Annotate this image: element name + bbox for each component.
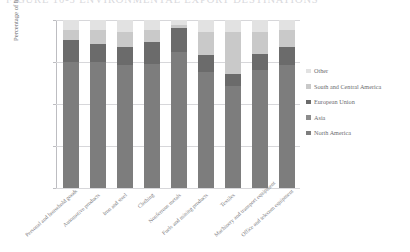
bar-segment[interactable] (252, 32, 268, 54)
bar-column[interactable] (90, 20, 106, 188)
bar-segment[interactable] (225, 86, 241, 188)
chart-legend: OtherSouth and Central AmericaEuropean U… (306, 63, 410, 141)
bar-segment[interactable] (198, 55, 214, 72)
y-axis-tick-mark (53, 104, 56, 105)
bar-column[interactable] (198, 20, 214, 188)
bar-column[interactable] (225, 20, 241, 188)
legend-item[interactable]: Asia (306, 110, 410, 126)
legend-swatch-icon (306, 131, 311, 136)
bar-segment[interactable] (144, 42, 160, 64)
bar-segment[interactable] (279, 20, 295, 30)
bar-segment[interactable] (90, 30, 106, 43)
x-axis-tick-label: Nonferrous metals (132, 192, 182, 238)
y-axis-tick-mark (53, 20, 56, 21)
x-axis-tick-label: Textiles (186, 192, 236, 238)
x-axis-tick-label: Personal and household goods (23, 192, 73, 238)
x-axis-tick-label: Office and telecom equipment (240, 192, 290, 238)
bar-segment[interactable] (117, 47, 133, 65)
legend-swatch-icon (306, 84, 311, 89)
page-title: FIGURE 10-5 ENVIRONMENTAL EXPORT DESTINA… (6, 0, 404, 6)
bar-segment[interactable] (63, 62, 79, 188)
bar-segment[interactable] (90, 62, 106, 188)
bar-segment[interactable] (225, 74, 241, 86)
x-axis-tick-label: Automotive products (51, 192, 101, 238)
legend-swatch-icon (306, 69, 311, 74)
bar-segment[interactable] (252, 70, 268, 188)
legend-item[interactable]: North America (306, 125, 410, 141)
bar-segment[interactable] (144, 20, 160, 30)
bar-segment[interactable] (171, 52, 187, 188)
bar-segment[interactable] (279, 30, 295, 47)
x-axis-tick-label: Machinery and transport equipment (213, 192, 263, 238)
x-axis-tick-label: Iron and steel (78, 192, 128, 238)
bar-segment[interactable] (63, 20, 79, 30)
y-axis-tick-mark (53, 146, 56, 147)
bar-column[interactable] (171, 20, 187, 188)
bar-column[interactable] (63, 20, 79, 188)
x-axis-labels: Personal and household goodsAutomotive p… (0, 189, 410, 252)
bar-segment[interactable] (63, 30, 79, 40)
y-axis-title: Percentage of Industry Exports (12, 0, 19, 60)
bar-segment[interactable] (117, 20, 133, 32)
legend-label: Other (314, 67, 328, 74)
bar-segment[interactable] (279, 47, 295, 65)
bar-segment[interactable] (117, 32, 133, 47)
y-axis-tick-mark (53, 62, 56, 63)
bar-segment[interactable] (144, 30, 160, 42)
legend-swatch-icon (306, 100, 311, 105)
bar-segment[interactable] (279, 65, 295, 188)
bar-segment[interactable] (252, 20, 268, 32)
bar-segment[interactable] (90, 44, 106, 62)
legend-label: North America (314, 129, 351, 136)
bar-segment[interactable] (171, 28, 187, 52)
bar-segment[interactable] (144, 64, 160, 188)
legend-label: European Union (314, 98, 355, 105)
bar-segment[interactable] (198, 72, 214, 188)
bar-column[interactable] (252, 20, 268, 188)
bar-segment[interactable] (252, 54, 268, 71)
bar-series-group (57, 20, 300, 188)
chart-plot-area: 0%25%50%75%100% Percentage of Industry E… (56, 20, 300, 188)
legend-item[interactable]: Other (306, 63, 410, 79)
legend-item[interactable]: South and Central America (306, 79, 410, 95)
bar-segment[interactable] (63, 40, 79, 62)
bar-column[interactable] (117, 20, 133, 188)
bar-segment[interactable] (225, 32, 241, 74)
bar-column[interactable] (144, 20, 160, 188)
bar-column[interactable] (279, 20, 295, 188)
x-axis-tick-label: Clothing (105, 192, 155, 238)
legend-label: Asia (314, 114, 325, 121)
legend-item[interactable]: European Union (306, 94, 410, 110)
bar-segment[interactable] (225, 20, 241, 32)
bar-segment[interactable] (117, 65, 133, 188)
x-axis-tick-label: Fuels and mining products (159, 192, 209, 238)
legend-swatch-icon (306, 115, 311, 120)
bar-segment[interactable] (198, 20, 214, 32)
bar-segment[interactable] (198, 32, 214, 56)
legend-label: South and Central America (314, 83, 381, 90)
bar-segment[interactable] (90, 20, 106, 30)
